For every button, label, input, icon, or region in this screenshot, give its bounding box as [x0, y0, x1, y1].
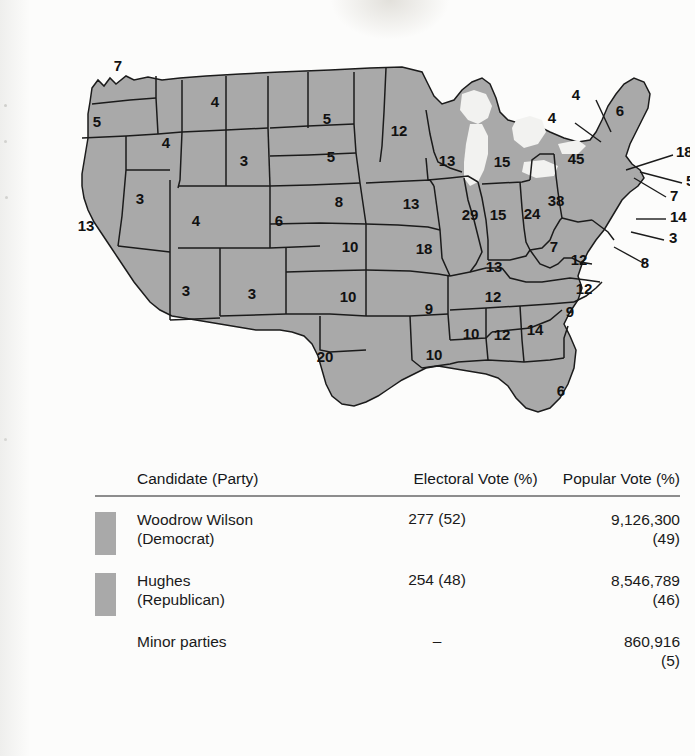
- callout-leader-ct: [634, 178, 666, 197]
- results-row: Woodrow Wilson(Democrat)277 (52)9,126,30…: [95, 510, 680, 555]
- state-ev-label-ne: 8: [335, 193, 343, 210]
- candidate-cell: Minor parties: [137, 632, 349, 651]
- results-header-table: Candidate (Party) Electoral Vote (%) Pop…: [95, 470, 680, 495]
- scan-edge-shading: [0, 0, 30, 756]
- state-ev-label-mt: 4: [211, 93, 220, 110]
- election-results-table: Candidate (Party) Electoral Vote (%) Pop…: [95, 470, 680, 693]
- candidate-name: Hughes: [137, 572, 190, 589]
- results-row: Hughes(Republican)254 (48)8,546,789(46): [95, 571, 680, 616]
- state-ev-label-nv: 3: [136, 190, 144, 207]
- scan-speck: [5, 196, 8, 199]
- state-ev-label-al: 12: [494, 326, 511, 343]
- column-header-popular-vote: Popular Vote (%): [563, 470, 680, 495]
- popular-vote-count: 8,546,789: [611, 572, 680, 589]
- state-ev-label-ga: 14: [527, 321, 544, 338]
- callout-label-nj: 14: [670, 208, 687, 225]
- column-header-electoral-vote: Electoral Vote (%): [388, 470, 563, 495]
- header-rule: [95, 495, 680, 497]
- callout-label-nh: 4: [572, 86, 581, 103]
- state-ev-label-ok: 10: [340, 288, 357, 305]
- state-ev-label-tn: 12: [485, 288, 502, 305]
- candidate-name: Minor parties: [137, 633, 227, 650]
- state-ev-label-pa: 38: [548, 192, 565, 209]
- callout-label-ri: 5: [686, 172, 690, 189]
- scan-speck: [4, 140, 7, 143]
- state-ev-label-co: 6: [275, 212, 283, 229]
- state-ev-label-wi: 13: [439, 152, 456, 169]
- popular-vote-count: 9,126,300: [611, 511, 680, 528]
- state-ev-label-mo: 18: [416, 240, 433, 257]
- legend-color-swatch: [95, 573, 116, 616]
- state-ev-label-wa: 7: [114, 57, 122, 74]
- results-header-row: Candidate (Party) Electoral Vote (%) Pop…: [95, 470, 680, 495]
- results-rows: Woodrow Wilson(Democrat)277 (52)9,126,30…: [95, 510, 680, 677]
- state-ev-label-sd: 5: [327, 148, 335, 165]
- callout-leader-ri: [640, 172, 682, 183]
- state-ev-label-ca: 13: [78, 217, 95, 234]
- state-ev-label-fl: 6: [557, 382, 565, 399]
- callout-leader-ma: [626, 155, 673, 170]
- state-ev-label-il: 29: [462, 206, 479, 223]
- legend-color-swatch: [95, 512, 116, 555]
- popular-vote-cell: 8,546,789(46): [525, 571, 680, 609]
- candidate-name: Woodrow Wilson: [137, 511, 253, 528]
- popular-vote-percent: (46): [525, 590, 680, 609]
- state-ev-label-id: 4: [162, 134, 171, 151]
- callout-label-ma: 18: [676, 143, 690, 160]
- state-ev-label-tx: 20: [317, 348, 334, 365]
- state-ev-label-az: 3: [182, 282, 190, 299]
- state-ev-label-in: 15: [490, 206, 507, 223]
- candidate-party: (Democrat): [137, 529, 349, 548]
- popular-vote-cell: 9,126,300(49): [525, 510, 680, 548]
- callout-label-vt: 4: [548, 109, 557, 126]
- state-ev-label-nm: 3: [248, 285, 256, 302]
- state-ev-label-mi: 15: [494, 153, 511, 170]
- electoral-vote-cell: 254 (48): [349, 571, 525, 589]
- candidate-cell: Hughes(Republican): [137, 571, 349, 609]
- state-ev-label-oh: 24: [524, 205, 541, 222]
- state-ev-label-wv: 7: [550, 238, 558, 255]
- legend-color-swatch: [95, 634, 116, 677]
- state-ev-label-ny: 45: [568, 150, 585, 167]
- state-ev-label-sc: 9: [566, 303, 574, 320]
- state-ev-label-or: 5: [93, 113, 101, 130]
- state-ev-label-ar: 9: [425, 300, 433, 317]
- state-ev-label-ks: 10: [342, 238, 359, 255]
- popular-vote-cell: 860,916(5): [525, 632, 680, 670]
- electoral-vote-cell: –: [349, 632, 525, 650]
- electoral-vote-cell: 277 (52): [349, 510, 525, 528]
- state-ev-label-la: 10: [426, 346, 443, 363]
- state-ev-label-ut: 4: [192, 212, 201, 229]
- candidate-cell: Woodrow Wilson(Democrat): [137, 510, 349, 548]
- candidate-party: (Republican): [137, 590, 349, 609]
- scan-speck: [4, 438, 7, 441]
- state-ev-label-ms: 10: [463, 325, 480, 342]
- callout-label-ct: 7: [670, 187, 678, 204]
- callout-label-de: 3: [669, 229, 677, 246]
- electoral-map-figure: 7513434343365581010201213189101329101515…: [30, 20, 690, 460]
- popular-vote-percent: (5): [525, 651, 680, 670]
- us-electoral-map: 7513434343365581010201213189101329101515…: [30, 20, 690, 460]
- callout-leader-de: [631, 232, 664, 240]
- scan-speck: [4, 104, 7, 107]
- state-ev-label-wy: 3: [240, 152, 248, 169]
- state-ev-label-mn: 12: [391, 122, 408, 139]
- popular-vote-count: 860,916: [624, 633, 680, 650]
- state-ev-label-nd: 5: [323, 110, 331, 127]
- state-ev-label-va: 12: [571, 251, 588, 268]
- state-ev-label-me: 6: [616, 102, 624, 119]
- state-ev-label-nc: 12: [576, 280, 593, 297]
- popular-vote-percent: (49): [525, 529, 680, 548]
- state-ev-label-ia: 13: [403, 195, 420, 212]
- results-row: Minor parties–860,916(5): [95, 632, 680, 677]
- state-ev-label-ky: 13: [486, 258, 503, 275]
- column-header-candidate: Candidate (Party): [95, 470, 388, 495]
- callout-label-md: 8: [641, 254, 649, 271]
